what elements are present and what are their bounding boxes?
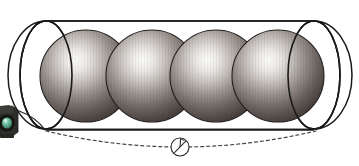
section-marker xyxy=(171,138,189,156)
figure-container: Technical illustration: four identical s… xyxy=(0,0,359,166)
sphere-row xyxy=(40,30,324,122)
section-marker-flag xyxy=(180,139,181,147)
camera-base xyxy=(0,134,14,138)
camera-lens-highlight xyxy=(4,119,7,122)
corner-camera-object xyxy=(0,105,18,138)
camera-lens-glass xyxy=(2,117,12,128)
sphere-4-texture xyxy=(232,30,324,122)
sphere-4 xyxy=(232,30,324,122)
spheres-in-cylinder-diagram xyxy=(0,0,359,166)
